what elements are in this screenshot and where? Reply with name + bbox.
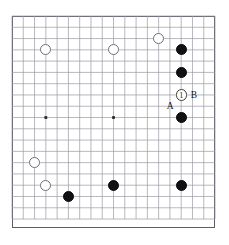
goban-surface[interactable] bbox=[12, 16, 215, 228]
go-board-diagram: 1 BA bbox=[0, 0, 229, 245]
